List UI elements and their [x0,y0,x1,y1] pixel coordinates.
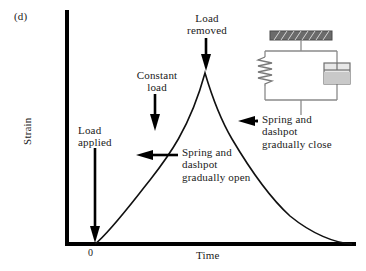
annotation-load-applied: Load applied [78,124,112,149]
annotation-spring-dashpot-close: Spring and dashpot gradually close [262,113,332,150]
panel-label: (d) [14,10,27,22]
kelvin-voigt-model [258,31,350,115]
annotation-load-removed: Load removed [176,12,238,37]
load-applied-arrow [90,148,100,243]
load-removed-arrow [201,38,211,71]
constant-load-arrow [150,94,160,131]
annotation-spring-dashpot-open: Spring and dashpot gradually open [182,146,250,183]
gradually-open-arrow [136,150,178,160]
origin-tick-label: 0 [88,247,93,258]
anelastic-strain-figure: (d) Strain Time 0 Load applied Constant … [0,0,366,271]
spring-icon [258,57,272,86]
gradually-close-arrow [238,116,258,126]
x-axis-label: Time [196,249,220,261]
dashpot-icon [324,63,350,84]
y-axis-label: Strain [21,101,33,161]
annotation-constant-load: Constant load [126,69,188,94]
